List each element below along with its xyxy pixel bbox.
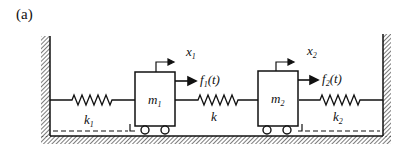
- label-f2: f2(t): [322, 71, 342, 88]
- label-f1: f1(t): [200, 72, 220, 89]
- left-wall: [41, 36, 50, 137]
- label-k: k: [211, 109, 217, 124]
- label-x2: x2: [306, 43, 317, 60]
- force-arrow-f1: [175, 77, 196, 85]
- displacement-arrow-x2: [276, 59, 294, 71]
- spring-k2: [299, 95, 383, 105]
- label-k1: k1: [84, 112, 94, 129]
- spring-k: [175, 95, 259, 105]
- displacement-arrow-x1: [156, 59, 174, 72]
- label-k2: k2: [333, 109, 343, 126]
- right-wall: [383, 34, 391, 137]
- label-x1: x1: [185, 44, 196, 61]
- reference-line-left: [53, 124, 135, 131]
- two-mass-spring-diagram: (a): [0, 0, 410, 150]
- force-arrow-f2: [298, 76, 318, 84]
- panel-label: (a): [16, 6, 33, 23]
- spring-k1: [50, 95, 135, 105]
- ground: [41, 136, 391, 144]
